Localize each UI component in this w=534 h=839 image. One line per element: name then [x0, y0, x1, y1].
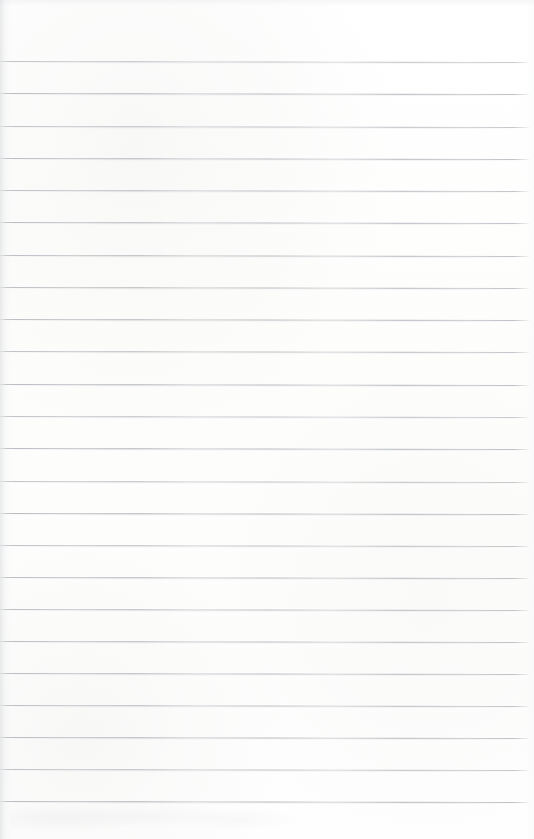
scanned-page	[0, 0, 534, 839]
paper-background	[0, 0, 534, 839]
